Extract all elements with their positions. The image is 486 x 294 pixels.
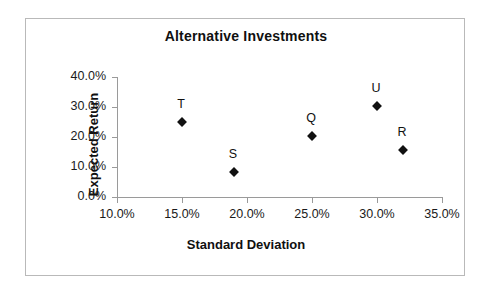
x-axis-tick (377, 198, 378, 203)
x-axis-tick-label: 15.0% (147, 207, 217, 221)
x-axis-tick-label: 30.0% (342, 207, 412, 221)
x-axis-tick-label: 20.0% (212, 207, 282, 221)
x-axis-tick-label: 35.0% (407, 207, 477, 221)
x-axis-title: Standard Deviation (26, 237, 466, 252)
data-point-label: S (229, 147, 237, 161)
data-point-label: T (177, 97, 185, 111)
x-axis-tick-label: 10.0% (82, 207, 152, 221)
data-point-label: Q (306, 111, 316, 125)
x-axis-tick-label: 25.0% (277, 207, 347, 221)
chart-frame: Alternative Investments Expected Return … (25, 18, 465, 276)
x-axis-tick (312, 198, 313, 203)
y-axis-tick (112, 167, 117, 168)
y-axis-tick (112, 77, 117, 78)
y-axis-tick-label: 20.0% (36, 129, 106, 143)
x-axis-tick (442, 198, 443, 203)
y-axis-tick-label: 40.0% (36, 69, 106, 83)
x-axis-tick (117, 198, 118, 203)
y-axis-tick-label: 10.0% (36, 159, 106, 173)
y-axis-tick (112, 137, 117, 138)
x-axis-line (117, 197, 443, 198)
x-axis-tick (247, 198, 248, 203)
data-point-label: R (397, 125, 406, 139)
y-axis-tick-label: 0.0% (36, 189, 106, 203)
y-axis-tick (112, 107, 117, 108)
y-axis-tick-label: 30.0% (36, 99, 106, 113)
chart-title: Alternative Investments (26, 28, 466, 44)
data-point-label: U (371, 81, 380, 95)
x-axis-tick (182, 198, 183, 203)
plot-area (117, 77, 442, 197)
